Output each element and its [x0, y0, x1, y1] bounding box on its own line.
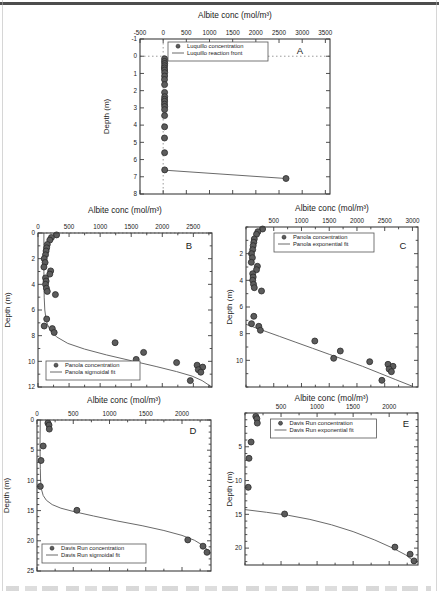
fit-line-E	[245, 510, 415, 563]
svg-text:1000: 1000	[203, 29, 218, 36]
svg-text:0: 0	[30, 416, 34, 423]
legend-D: Davis Run concentrationDavis Run sigmoid…	[42, 544, 146, 563]
svg-text:5: 5	[30, 446, 34, 453]
panel-letter-A: A	[297, 45, 304, 56]
svg-text:6: 6	[133, 156, 137, 163]
svg-text:Depth (m): Depth (m)	[2, 477, 11, 513]
svg-text:2000: 2000	[175, 410, 190, 417]
y-axis-label-E: Depth (m)	[225, 471, 234, 507]
axis-title-A: Albite conc (mol/m³)	[198, 10, 272, 20]
svg-text:1000: 1000	[102, 410, 117, 417]
svg-text:500: 500	[68, 410, 79, 417]
panel-c-panola-exponential-chart: Albite conc (mol/m³)50010001500200025003…	[225, 200, 439, 392]
svg-text:2000: 2000	[155, 223, 170, 230]
legend-E: Davis Run concentrationDavis Run exponen…	[271, 419, 377, 438]
svg-text:6: 6	[31, 306, 35, 313]
chart-svg-C: Albite conc (mol/m³)50010001500200025003…	[225, 200, 439, 392]
svg-text:1000: 1000	[294, 217, 309, 224]
svg-text:500: 500	[64, 223, 75, 230]
svg-text:B: B	[186, 240, 192, 251]
svg-text:Albite conc (mol/m³): Albite conc (mol/m³)	[295, 393, 369, 403]
panel-letter-C: C	[400, 240, 407, 251]
svg-text:Depth (m): Depth (m)	[225, 289, 234, 325]
svg-text:3500: 3500	[318, 29, 333, 36]
svg-text:8: 8	[31, 332, 35, 339]
panel-letter-D: D	[190, 425, 197, 436]
y-axis-label-C: Depth (m)	[225, 289, 234, 325]
svg-text:3000: 3000	[405, 217, 420, 224]
svg-text:0: 0	[133, 52, 137, 59]
svg-text:10: 10	[236, 357, 244, 364]
panel-letter-B: B	[186, 240, 192, 251]
caption-cropped-text	[6, 586, 431, 591]
fit-line-D	[40, 420, 210, 554]
svg-text:Panola concentration: Panola concentration	[293, 234, 347, 240]
svg-text:1500: 1500	[226, 29, 241, 36]
svg-text:Davis Run concentration: Davis Run concentration	[290, 420, 353, 426]
svg-text:2000: 2000	[249, 29, 264, 36]
svg-text:2500: 2500	[378, 217, 393, 224]
svg-text:Albite conc (mol/m³): Albite conc (mol/m³)	[88, 205, 162, 215]
svg-text:Davis Run exponential fit: Davis Run exponential fit	[290, 427, 355, 433]
svg-text:500: 500	[276, 403, 287, 410]
svg-text:10: 10	[28, 358, 36, 365]
scatter-points-A	[161, 56, 289, 182]
svg-text:1500: 1500	[139, 410, 154, 417]
panel-d-davisrun-sigmoidal-chart: Albite conc (mol/m³)05001000150020000510…	[0, 390, 225, 585]
svg-text:2: 2	[133, 87, 137, 94]
svg-text:D: D	[190, 425, 197, 436]
svg-text:10: 10	[235, 477, 243, 484]
svg-text:25: 25	[27, 567, 35, 574]
y-axis-label-A: Depth (m)	[102, 98, 111, 134]
svg-text:2500: 2500	[272, 29, 287, 36]
svg-text:Depth (m): Depth (m)	[225, 471, 234, 507]
svg-text:Panola concentration: Panola concentration	[65, 362, 119, 368]
svg-text:1: 1	[133, 70, 137, 77]
svg-text:Depth (m): Depth (m)	[3, 292, 12, 328]
chart-svg-E: Albite conc (mol/m³)50010001500200051015…	[225, 390, 439, 582]
panel-letter-E: E	[403, 418, 409, 429]
svg-text:Luquillo concentration: Luquillo concentration	[187, 43, 243, 49]
chart-svg-A: Albite conc (mol/m³)-5000500100015002000…	[80, 4, 342, 202]
y-axis-label-B: Depth (m)	[3, 292, 12, 328]
svg-text:0: 0	[161, 29, 165, 36]
axis-title-E: Albite conc (mol/m³)	[295, 393, 369, 403]
y-axis-label-D: Depth (m)	[2, 477, 11, 513]
svg-text:1000: 1000	[310, 403, 325, 410]
svg-text:5: 5	[133, 139, 137, 146]
svg-text:2000: 2000	[350, 217, 365, 224]
svg-text:0: 0	[35, 410, 39, 417]
svg-text:15: 15	[235, 511, 243, 518]
svg-text:4: 4	[239, 277, 243, 284]
svg-text:Panola sigmoidal fit: Panola sigmoidal fit	[65, 369, 116, 375]
axis-title-B: Albite conc (mol/m³)	[88, 205, 162, 215]
svg-text:1000: 1000	[93, 223, 108, 230]
svg-text:20: 20	[27, 537, 35, 544]
panel-b-panola-sigmoidal-chart: Albite conc (mol/m³)05001000150020002500…	[0, 200, 225, 392]
panel-a-luquillo-chart: Albite conc (mol/m³)-5000500100015002000…	[80, 4, 342, 202]
svg-text:10: 10	[27, 477, 35, 484]
axis-title-C: Albite conc (mol/m³)	[295, 203, 369, 213]
svg-text:Albite conc (mol/m³): Albite conc (mol/m³)	[87, 395, 161, 405]
legend-B: Panola concentrationPanola sigmoidal fit	[46, 361, 140, 380]
svg-text:500: 500	[181, 29, 192, 36]
svg-text:1500: 1500	[346, 403, 361, 410]
svg-text:1500: 1500	[322, 217, 337, 224]
svg-text:3: 3	[133, 104, 137, 111]
svg-text:Luquillo reaction front: Luquillo reaction front	[187, 50, 243, 56]
chart-svg-B: Albite conc (mol/m³)05001000150020002500…	[0, 200, 225, 392]
svg-text:20: 20	[235, 544, 243, 551]
svg-text:2: 2	[31, 255, 35, 262]
svg-text:5: 5	[238, 443, 242, 450]
svg-text:0: 0	[31, 229, 35, 236]
svg-text:Panola exponential fit: Panola exponential fit	[293, 241, 349, 247]
svg-text:15: 15	[27, 507, 35, 514]
svg-text:7: 7	[133, 173, 137, 180]
svg-text:-1: -1	[131, 35, 137, 42]
svg-text:2000: 2000	[382, 403, 397, 410]
svg-text:Albite conc (mol/m³): Albite conc (mol/m³)	[198, 10, 272, 20]
svg-text:Davis Run sigmoidal fit: Davis Run sigmoidal fit	[61, 552, 120, 558]
svg-text:3000: 3000	[295, 29, 310, 36]
chart-svg-D: Albite conc (mol/m³)05001000150020000510…	[0, 390, 225, 585]
panel-e-davisrun-exponential-chart: Albite conc (mol/m³)50010001500200051015…	[225, 390, 439, 582]
